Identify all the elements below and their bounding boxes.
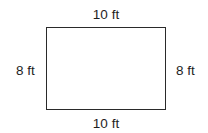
rectangle-shape <box>46 27 166 110</box>
right-side-length-label: 8 ft <box>176 64 195 78</box>
top-side-length-label: 10 ft <box>0 8 208 22</box>
bottom-side-length-label: 10 ft <box>0 117 208 131</box>
left-side-length-label: 8 ft <box>16 64 35 78</box>
